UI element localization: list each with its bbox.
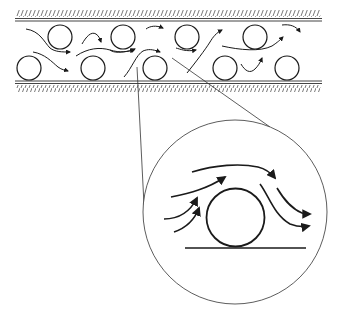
particle bbox=[17, 56, 41, 80]
channel-flow-arrows bbox=[26, 25, 300, 77]
top-wall-hatching bbox=[16, 10, 321, 17]
flow-arrow bbox=[82, 33, 101, 44]
particle bbox=[81, 56, 105, 80]
particle bbox=[143, 56, 167, 80]
flow-arrow bbox=[282, 25, 300, 32]
channel-particles bbox=[17, 25, 299, 80]
flow-arrow bbox=[76, 48, 135, 56]
particle bbox=[213, 56, 237, 80]
particle bbox=[175, 25, 199, 49]
flow-arrow bbox=[187, 30, 222, 73]
particle bbox=[48, 25, 72, 49]
flow-arrow bbox=[241, 58, 262, 71]
particle bbox=[111, 25, 135, 49]
magnified-inset bbox=[143, 120, 327, 304]
particle bbox=[243, 25, 267, 49]
bottom-wall bbox=[15, 81, 322, 92]
flow-arrow bbox=[124, 50, 160, 77]
porous-flow-diagram bbox=[0, 0, 338, 319]
flow-arrow bbox=[222, 37, 283, 50]
bottom-wall-hatching bbox=[16, 85, 321, 92]
flow-arrow bbox=[33, 52, 68, 71]
top-wall bbox=[15, 10, 322, 21]
flow-arrow bbox=[146, 26, 163, 29]
particle bbox=[275, 56, 299, 80]
